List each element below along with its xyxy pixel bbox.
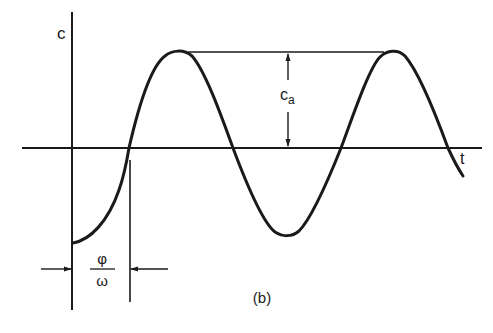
y-axis-label: c [57,24,66,43]
x-axis-label: t [460,150,465,167]
phase-denominator: ω [96,272,108,289]
amplitude-label: ca [280,86,295,107]
phase-numerator: φ [97,250,107,267]
sinusoid-diagram: ca φ ω c t (b) [0,0,493,333]
figure-caption: (b) [253,289,271,306]
